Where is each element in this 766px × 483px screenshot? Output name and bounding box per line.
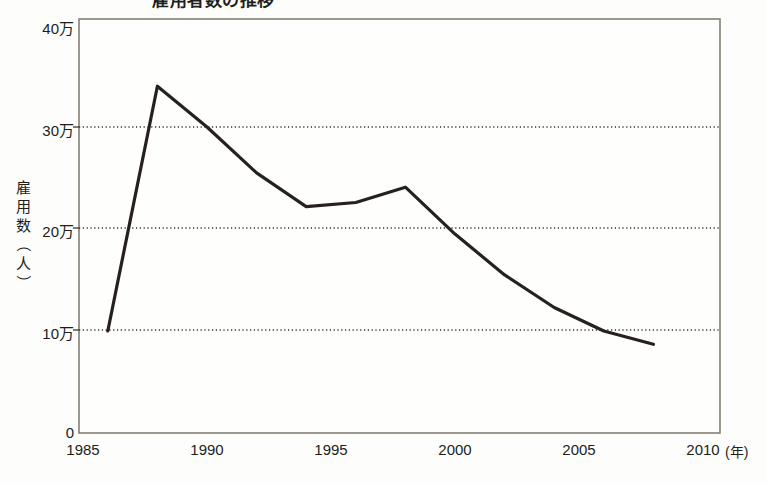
plot-frame: [79, 19, 720, 433]
plot-area: [0, 0, 766, 483]
chart-figure: 雇用者数の推移 雇 用 数 （ 人 ） 40万 30万 20万 10万 0 19…: [0, 0, 766, 483]
y-tick-marks: [73, 127, 79, 330]
